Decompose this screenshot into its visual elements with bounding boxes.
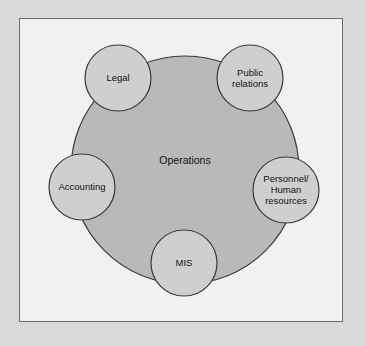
diagram-canvas	[0, 0, 366, 346]
public-relations-circle[interactable]	[217, 45, 283, 111]
accounting-circle[interactable]	[49, 154, 115, 220]
legal-circle[interactable]	[85, 45, 151, 111]
diagram-root: Operations Legal Public relations Accoun…	[0, 0, 366, 346]
mis-circle[interactable]	[151, 230, 217, 296]
personnel-human-resources-circle[interactable]	[253, 157, 319, 223]
